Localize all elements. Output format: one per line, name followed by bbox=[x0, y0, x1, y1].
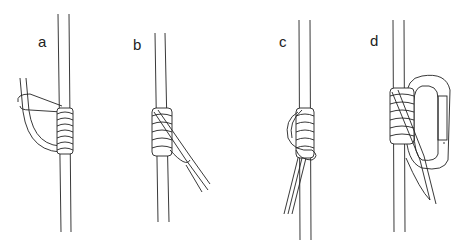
knot-step-a-illustration bbox=[0, 0, 130, 251]
panel-a: a bbox=[0, 0, 130, 251]
knot-step-d-illustration bbox=[350, 0, 471, 251]
knot-step-c-illustration bbox=[240, 0, 350, 251]
panel-b: b bbox=[130, 0, 240, 251]
knot-step-b-illustration bbox=[130, 0, 240, 251]
panel-d: d bbox=[350, 0, 471, 251]
panel-c: c bbox=[240, 0, 350, 251]
